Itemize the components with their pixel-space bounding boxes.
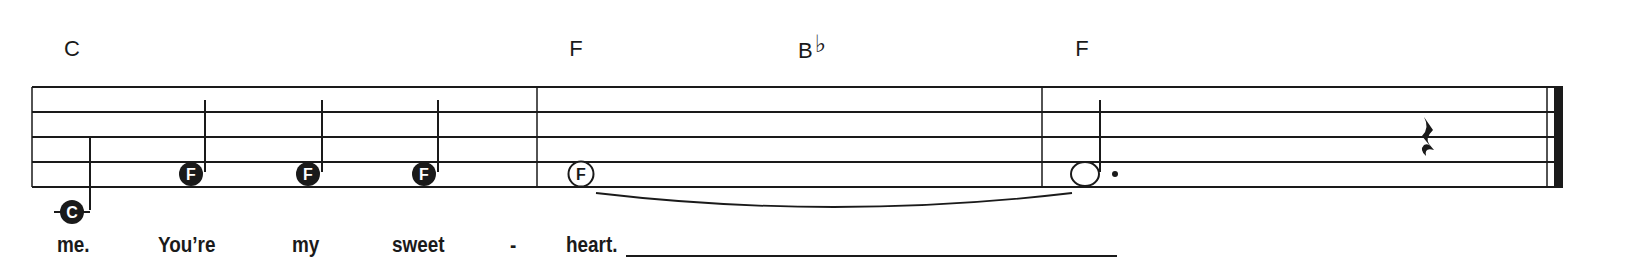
chord-symbol-f-2: F [1075,36,1088,62]
lyric-syllable: You’re [158,232,215,258]
chord-root: F [1075,36,1088,61]
chord-root: C [64,36,80,61]
note-name-label: F [303,166,313,183]
lyric-syllable: sweet [392,232,445,258]
note-name-label: F [186,166,196,183]
note-head-half [1071,162,1099,186]
chord-symbol-bflat: B♭ [798,36,826,64]
note-name-label: F [419,166,429,183]
chord-symbol-c: C [64,36,80,62]
note-name-label: F [576,166,586,183]
chord-root: B [798,38,813,63]
flat-icon: ♭ [815,30,826,58]
lyric-syllable: heart. [566,232,618,258]
lyric-syllable: me. [57,232,90,258]
lyric-hyphen: - [510,232,516,258]
lyric-syllable: my [292,232,319,258]
sheet-music: CFFFF C F B♭ F me. You’re my sweet - hea… [0,0,1626,275]
final-barline-thick [1554,86,1563,188]
tie-slur [596,193,1072,207]
augmentation-dot [1112,171,1118,177]
chord-root: F [569,36,582,61]
note-name-label: C [66,204,78,221]
chord-symbol-f: F [569,36,582,62]
